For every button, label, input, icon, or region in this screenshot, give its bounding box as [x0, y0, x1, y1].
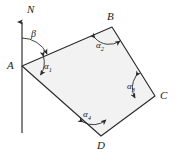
alpha3-subscript: 3: [132, 86, 135, 93]
alpha2-angle-label: α2: [96, 41, 104, 52]
alpha3-angle-label: α3: [127, 82, 135, 93]
alpha1-angle-label: α1: [44, 62, 52, 73]
vertex-label-A: A: [7, 60, 14, 71]
vertex-label-D: D: [97, 140, 105, 151]
alpha4-angle-label: α4: [83, 110, 91, 121]
beta-angle-label: β: [31, 29, 36, 39]
beta-angle-arc: [22, 38, 47, 54]
alpha4-subscript: 4: [88, 114, 91, 121]
figure-canvas: [0, 0, 179, 158]
alpha1-subscript: 1: [49, 66, 52, 73]
alpha2-subscript: 2: [101, 45, 104, 52]
vertex-label-C: C: [160, 90, 167, 101]
vertex-label-N: N: [27, 4, 34, 15]
geometry-figure: N A B C D β α1 α2 α3 α4: [0, 0, 179, 158]
vertex-label-B: B: [107, 11, 114, 22]
